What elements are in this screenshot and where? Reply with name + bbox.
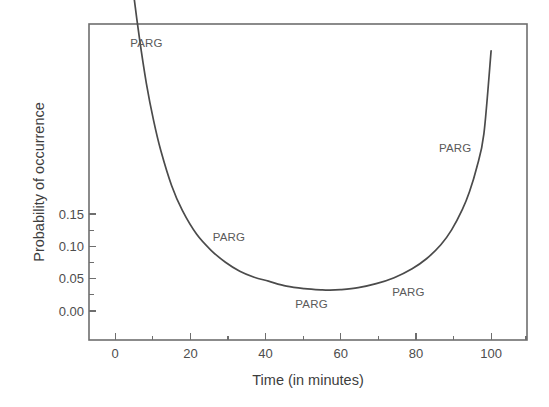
chart-container: 0.00 0.05 0.10 0.15 0 20 40 60 80 100 [0, 0, 549, 407]
y-tick-label-1: 0.05 [59, 271, 84, 286]
x-tick-label-2: 40 [258, 346, 272, 361]
series-annotation-parg-5: PARG [439, 142, 472, 154]
x-tick-label-3: 60 [334, 346, 348, 361]
series-annotation-parg-4: PARG [392, 286, 425, 298]
series-annotation-parg-2: PARG [213, 231, 246, 243]
series-annotation-parg-3: PARG [295, 298, 328, 310]
y-tick-label-0: 0.00 [59, 304, 84, 319]
plot-frame [89, 24, 527, 340]
x-tick-label-4: 80 [409, 346, 423, 361]
x-axis-title: Time (in minutes) [252, 372, 363, 388]
y-axis-title: Probability of occurrence [31, 102, 47, 262]
data-series-parg-curve [125, 0, 491, 290]
series-annotation-parg-1: PARG [130, 37, 163, 49]
y-tick-label-2: 0.10 [59, 239, 84, 254]
x-tick-label-0: 0 [112, 346, 119, 361]
x-tick-label-5: 100 [480, 346, 502, 361]
probability-of-occurrence-line-chart: 0.00 0.05 0.10 0.15 0 20 40 60 80 100 [0, 0, 549, 407]
x-tick-label-1: 20 [183, 346, 197, 361]
y-tick-label-3: 0.15 [59, 207, 84, 222]
